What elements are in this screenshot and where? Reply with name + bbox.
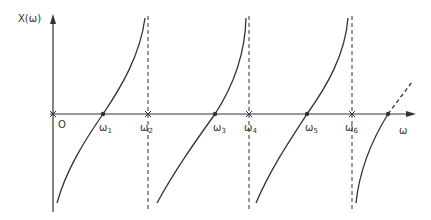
zero-mark-omega3-icon (213, 112, 217, 116)
curve-branch-4 (356, 114, 388, 203)
curve-branch-2 (157, 18, 246, 203)
zero-mark-omega5-icon (305, 112, 309, 116)
origin-label: O (58, 119, 66, 130)
y-axis-arrow-icon (50, 14, 56, 24)
label-omega6: ω6 (345, 122, 358, 135)
label-omega4: ω4 (244, 122, 257, 135)
label-omega3: ω3 (213, 122, 226, 135)
reactance-diagram: X(ω) ω O ω1 ω2 ω3 ω4 ω5 ω6 (0, 0, 431, 220)
x-axis-label: ω (399, 125, 407, 136)
curve-branch-1 (57, 18, 145, 203)
label-omega2: ω2 (140, 122, 153, 135)
y-axis-label: X(ω) (18, 13, 41, 24)
label-omega5: ω5 (305, 122, 318, 135)
x-axis-arrow-icon (406, 111, 416, 117)
label-omega1: ω1 (99, 122, 112, 135)
zero-mark-next-icon (386, 112, 390, 116)
curve-branch-3 (256, 18, 348, 203)
curve-branch-4-continuation (388, 82, 412, 114)
zero-mark-omega1-icon (101, 112, 105, 116)
